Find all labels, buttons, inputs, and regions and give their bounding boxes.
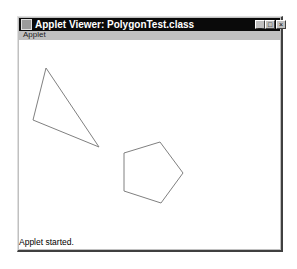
pentagon-shape xyxy=(124,142,183,203)
polygon-drawing xyxy=(0,0,297,269)
triangle-shape xyxy=(33,68,99,147)
